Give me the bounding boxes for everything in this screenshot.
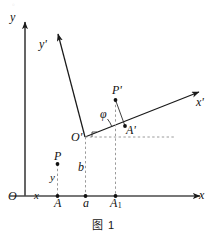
segment-P-prime-to-A-prime <box>116 100 126 126</box>
origin-prime-label: O' <box>71 131 82 143</box>
segment-b-label: b <box>78 161 84 173</box>
angle-phi-label: φ <box>100 108 107 120</box>
x-prime-axis-label: x' <box>196 96 204 108</box>
origin-label: O <box>8 190 17 202</box>
point-A-prime-label: A' <box>126 124 136 136</box>
figure-caption: 图 1 <box>92 216 115 232</box>
point-A-label: A <box>54 197 61 209</box>
segment-y-label: y <box>50 172 55 183</box>
figure-container: 。 y x O y' x <box>0 0 214 234</box>
segment-a-label: a <box>83 197 89 209</box>
y-prime-axis <box>58 34 85 137</box>
y-prime-axis-label: y' <box>39 38 47 50</box>
point-A-one-subscript: 1 <box>117 201 121 210</box>
point-P-label: P <box>54 150 61 162</box>
segment-x-label: x <box>34 190 39 201</box>
angle-phi-arc <box>108 119 113 127</box>
point-P-prime-dot <box>114 98 118 102</box>
y-axis-label: y <box>10 11 15 23</box>
point-A-one-label: A1 <box>110 197 122 210</box>
coordinate-diagram <box>0 0 214 234</box>
point-P-prime-label: P' <box>112 84 122 96</box>
x-axis-label: x <box>199 189 204 201</box>
